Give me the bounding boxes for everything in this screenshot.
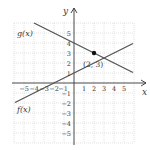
svg-text:−2: −2 — [61, 100, 71, 108]
f-label: f(x) — [16, 105, 31, 114]
svg-text:4: 4 — [67, 40, 71, 48]
svg-text:4: 4 — [112, 85, 116, 93]
g-label: g(x) — [17, 29, 33, 38]
svg-text:5: 5 — [122, 85, 126, 93]
svg-text:−4: −4 — [61, 120, 71, 128]
svg-text:3: 3 — [67, 50, 71, 58]
svg-text:3: 3 — [102, 85, 106, 93]
svg-text:1: 1 — [67, 70, 71, 78]
intersection-point — [92, 51, 96, 55]
svg-text:−1: −1 — [61, 90, 71, 98]
svg-text:2: 2 — [92, 85, 96, 93]
svg-text:1: 1 — [82, 85, 86, 93]
svg-text:5: 5 — [67, 30, 71, 38]
svg-text:−3: −3 — [61, 110, 71, 118]
y-tick-labels: 5 4 3 2 1 −1 −2 −3 −4 −5 — [61, 30, 71, 139]
x-tick-labels: −5 −4 −3 −2 −1 1 2 3 4 5 — [19, 85, 126, 93]
svg-text:−5: −5 — [61, 130, 71, 138]
svg-text:−4: −4 — [29, 85, 39, 93]
svg-text:2: 2 — [67, 60, 71, 68]
point-label: (2, 3) — [83, 60, 103, 69]
coordinate-plane: y x g(x) f(x) (2, 3) −5 −4 −3 −2 −1 1 2 … — [0, 0, 150, 150]
svg-text:−5: −5 — [19, 85, 29, 93]
svg-text:−3: −3 — [39, 85, 49, 93]
y-axis-label: y — [62, 6, 69, 16]
x-axis-label: x — [142, 87, 147, 97]
